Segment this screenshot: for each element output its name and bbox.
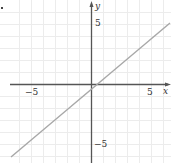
y-tick-neg5: −5 [94,139,108,149]
y-axis-label: y [94,1,101,11]
x-axis-label: x [163,86,168,96]
y-tick-5: 5 [95,18,101,28]
x-tick-neg5: −5 [25,87,39,97]
y-axis-arrow-icon [90,1,94,7]
grid [0,0,171,163]
x-tick-5: 5 [147,87,153,97]
chart: y x −5 5 5 −5 [0,0,171,163]
